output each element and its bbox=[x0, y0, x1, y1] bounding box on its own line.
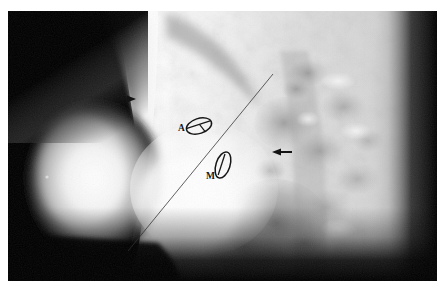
radiograph-canvas: A M bbox=[8, 11, 437, 281]
film-grain bbox=[8, 11, 437, 281]
radiograph-figure: A M bbox=[0, 0, 443, 289]
radiograph-plate: A M bbox=[8, 11, 437, 281]
